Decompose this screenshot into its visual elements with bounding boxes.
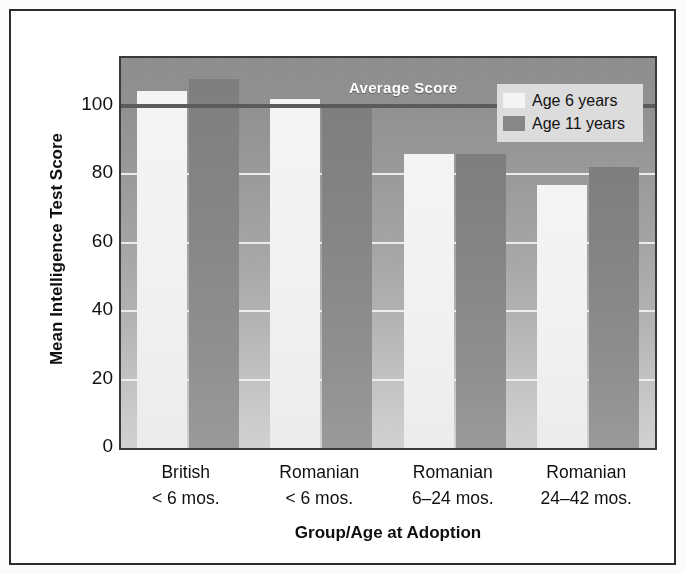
x-tick-label-0: British< 6 mos.: [119, 459, 253, 511]
x-tick-label-3: Romanian24–42 mos.: [520, 459, 654, 511]
bar-0-series-0: [137, 91, 187, 449]
bar-2-series-1: [456, 154, 506, 448]
y-tick-label-60: 60: [92, 230, 113, 252]
x-tick-label-2: Romanian6–24 mos.: [386, 459, 520, 511]
legend[interactable]: Age 6 yearsAge 11 years: [497, 84, 643, 142]
x-tick-label-2-line2: 6–24 mos.: [386, 485, 520, 511]
legend-label-1: Age 11 years: [532, 116, 625, 132]
x-tick-label-3-line2: 24–42 mos.: [520, 485, 654, 511]
x-tick-label-1-line2: < 6 mos.: [253, 485, 387, 511]
x-tick-label-0-line1: British: [161, 462, 210, 482]
bar-0-series-1: [189, 79, 239, 448]
bar-3-series-1: [589, 167, 639, 448]
legend-item-0[interactable]: Age 6 years: [503, 89, 637, 112]
y-tick-label-80: 80: [92, 161, 113, 183]
y-axis-title: Mean Intelligence Test Score: [47, 99, 67, 399]
x-axis-tick-labels: British< 6 mos.Romanian< 6 mos.Romanian6…: [119, 459, 657, 517]
bar-1-series-0: [270, 99, 320, 448]
y-axis-tick-labels: 020406080100: [69, 56, 113, 450]
figure: Mean Intelligence Test Score 02040608010…: [0, 0, 685, 574]
light-swatch: [503, 93, 525, 108]
dark-swatch: [503, 116, 525, 131]
x-tick-label-2-line1: Romanian: [413, 462, 493, 482]
figure-frame: Mean Intelligence Test Score 02040608010…: [9, 9, 676, 565]
x-tick-label-3-line1: Romanian: [546, 462, 626, 482]
y-tick-label-100: 100: [81, 93, 113, 115]
bar-3-series-0: [537, 185, 587, 448]
x-axis-title: Group/Age at Adoption: [119, 523, 657, 543]
legend-label-0: Age 6 years: [532, 93, 617, 109]
plot-area: Average Score Age 6 yearsAge 11 years: [119, 56, 657, 450]
y-tick-label-0: 0: [102, 435, 113, 457]
bar-2-series-0: [404, 154, 454, 448]
y-tick-label-40: 40: [92, 298, 113, 320]
x-tick-label-1: Romanian< 6 mos.: [253, 459, 387, 511]
y-tick-label-20: 20: [92, 367, 113, 389]
average-score-label: Average Score: [349, 79, 457, 96]
x-tick-label-1-line1: Romanian: [279, 462, 359, 482]
x-tick-label-0-line2: < 6 mos.: [119, 485, 253, 511]
bar-1-series-1: [322, 106, 372, 448]
legend-item-1[interactable]: Age 11 years: [503, 112, 637, 135]
